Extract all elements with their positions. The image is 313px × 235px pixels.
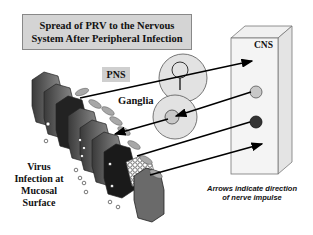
ganglia-label: Ganglia (118, 95, 154, 106)
diagram-title: Spread of PRV to the Nervous System Afte… (22, 14, 192, 50)
virus-label-line-2: Infection at (8, 173, 70, 185)
note-line-1: Arrows indicate direction (196, 184, 308, 193)
virus-label-line-3: Mucosal (8, 185, 70, 197)
note-line-2: of nerve impulse (196, 193, 308, 202)
virus-label-line-1: Virus (8, 161, 70, 173)
cns-neuron-dark (250, 116, 262, 128)
title-line-1: Spread of PRV to the Nervous (40, 19, 175, 32)
cns-neuron-light (250, 86, 262, 98)
title-line-2: System After Peripheral Infection (31, 32, 182, 45)
ganglion-upper (159, 54, 207, 102)
cns-label: CNS (254, 40, 273, 50)
arrow-direction-note: Arrows indicate direction of nerve impul… (196, 184, 308, 202)
virus-infection-label: Virus Infection at Mucosal Surface (8, 161, 70, 209)
virus-label-line-4: Surface (8, 197, 70, 209)
pns-label: PNS (102, 67, 130, 82)
ganglion-lower (153, 95, 197, 139)
